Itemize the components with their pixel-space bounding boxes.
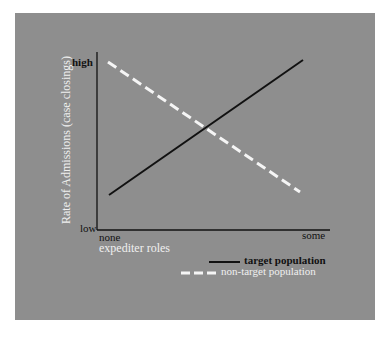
x-axis-label: expediter roles: [99, 241, 170, 256]
legend-nontarget-label: non-target population: [221, 265, 316, 277]
x-tick-some: some: [302, 229, 325, 241]
y-tick-low: low: [80, 222, 97, 234]
y-tick-high: high: [72, 56, 93, 68]
y-axis-label: Rate of Admissions (case closings): [59, 56, 74, 224]
